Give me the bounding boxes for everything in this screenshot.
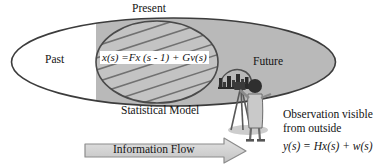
- observation-note-line1: Observation visible: [283, 108, 373, 120]
- label-information-flow: Information Flow: [113, 143, 194, 157]
- observation-note-line2: from outside: [283, 122, 373, 136]
- label-statistical-model: Statistical Model: [121, 104, 199, 118]
- observation-equation: y(s) = Hx(s) + w(s): [283, 140, 373, 154]
- label-present: Present: [132, 2, 166, 16]
- observation-note: Observation visible from outside: [283, 108, 373, 135]
- label-future: Future: [253, 55, 283, 69]
- diagram-canvas: Present Past Future x(s) =Fx (s - 1) + G…: [0, 0, 378, 167]
- state-equation: x(s) =Fx (s - 1) + Gv(s): [100, 51, 209, 64]
- label-past: Past: [45, 53, 64, 67]
